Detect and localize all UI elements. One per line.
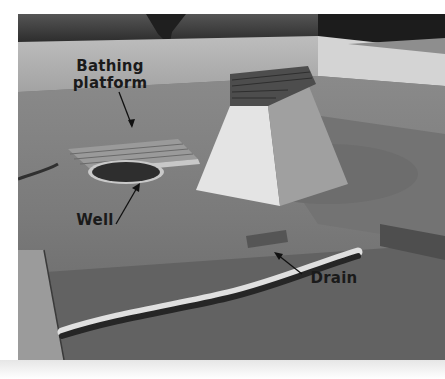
drain-label: Drain [304,270,364,287]
well-label: Well [70,212,120,229]
excavation-photo: Bathing platform Well Drain [18,14,445,360]
bottom-margin [0,360,445,379]
label-line-1: Bathing [60,58,160,75]
bathing-platform-label: Bathing platform [60,58,160,92]
label-line-2: platform [60,75,160,92]
well [92,162,160,182]
